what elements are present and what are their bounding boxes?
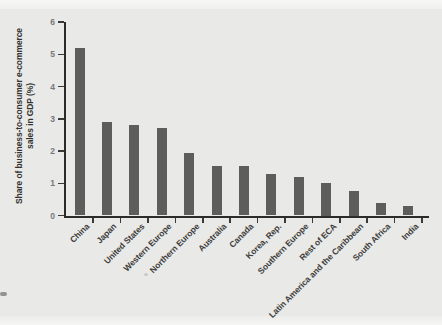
bar — [239, 166, 249, 216]
y-tick-mark — [58, 150, 64, 152]
y-tick-label: 4 — [37, 82, 55, 92]
y-tick-label: 0 — [37, 211, 55, 221]
scan-edge-top — [0, 0, 442, 9]
bar — [184, 153, 194, 216]
y-tick-mark — [58, 21, 64, 23]
y-tick-label: 1 — [37, 178, 55, 188]
x-tick-mark — [421, 218, 423, 223]
x-tick-mark — [312, 218, 314, 223]
x-tick-mark — [366, 218, 368, 223]
y-tick-label: 2 — [37, 146, 55, 156]
x-tick-mark — [339, 218, 341, 223]
x-tick-mark — [229, 218, 231, 223]
y-tick-mark — [58, 54, 64, 56]
y-axis-title: Share of business-to-consumer e-commerce… — [14, 16, 36, 216]
y-tick-mark — [58, 86, 64, 88]
y-axis-title-line1: Share of business-to-consumer e-commerce — [14, 16, 25, 216]
x-tick-mark — [284, 218, 286, 223]
x-axis-line — [64, 216, 429, 218]
y-axis-title-line2: sales in GDP (%) — [25, 16, 36, 216]
bar — [266, 174, 276, 216]
y-tick-mark — [58, 183, 64, 185]
bar — [212, 166, 222, 216]
x-tick-mark — [257, 218, 259, 223]
y-tick-mark — [58, 118, 64, 120]
bar — [349, 191, 359, 215]
bar — [321, 183, 331, 215]
y-tick-mark — [58, 215, 64, 217]
bar — [294, 177, 304, 216]
bar — [102, 122, 112, 216]
bar — [376, 203, 386, 216]
bar — [403, 206, 413, 216]
x-tick-mark — [394, 218, 396, 223]
bar — [157, 128, 167, 215]
x-tick-mark — [92, 218, 94, 223]
x-tick-mark — [120, 218, 122, 223]
x-tick-mark — [202, 218, 204, 223]
bar — [75, 48, 85, 216]
y-tick-label: 6 — [37, 17, 55, 27]
scanned-page: Share of business-to-consumer e-commerce… — [0, 0, 442, 325]
y-tick-label: 5 — [37, 49, 55, 59]
x-tick-mark — [147, 218, 149, 223]
scan-artifact-dash — [0, 292, 7, 296]
y-axis-line — [64, 22, 66, 218]
bar — [129, 125, 139, 215]
y-tick-label: 3 — [37, 114, 55, 124]
x-tick-mark — [175, 218, 177, 223]
